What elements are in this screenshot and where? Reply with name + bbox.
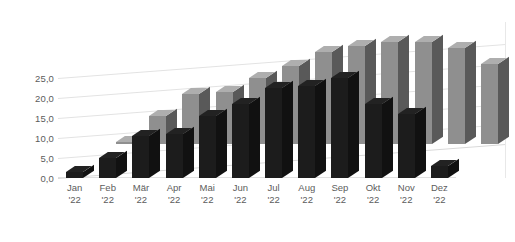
- x-axis-month: Mai: [200, 182, 215, 193]
- bar-side-face: [149, 129, 160, 178]
- bar-front-face: [166, 134, 183, 178]
- x-axis-year: '22: [190, 194, 224, 206]
- x-axis-year: '22: [257, 194, 291, 206]
- x-axis-month: Jun: [233, 182, 248, 193]
- bar-column: [398, 114, 415, 178]
- x-axis-month: Jan: [67, 182, 82, 193]
- x-axis-category-label: Dez'22: [422, 182, 456, 206]
- bar-column: [448, 48, 465, 144]
- bar-front-face: [199, 116, 216, 178]
- x-axis-category-label: Mär'22: [124, 182, 158, 206]
- bar-column: [166, 134, 183, 178]
- x-axis-month: Okt: [366, 182, 381, 193]
- x-axis-category-label: Okt'22: [356, 182, 390, 206]
- x-axis-month: Feb: [100, 182, 116, 193]
- x-axis-year: '22: [223, 194, 257, 206]
- x-axis-category-label: Jan'22: [58, 182, 92, 206]
- bar-column: [298, 86, 315, 178]
- x-axis-year: '22: [389, 194, 423, 206]
- bar-column: [265, 88, 282, 178]
- bar-column: [232, 104, 249, 178]
- bar-side-face: [282, 81, 293, 178]
- bar-column: [365, 104, 382, 178]
- bar-column: [431, 166, 448, 178]
- bar-side-face: [183, 127, 194, 178]
- x-axis-month: Nov: [398, 182, 415, 193]
- x-axis-year: '22: [356, 194, 390, 206]
- x-axis-year: '22: [157, 194, 191, 206]
- bar-side-face: [415, 107, 426, 178]
- bar-column: [99, 158, 116, 178]
- bar-front-face: [232, 104, 249, 178]
- bar-column: [199, 116, 216, 178]
- x-axis: Jan'22Feb'22Mär'22Apr'22Mai'22Jun'22Jul'…: [58, 182, 458, 218]
- bar-front-face: [481, 64, 498, 144]
- bar-column: [116, 142, 133, 144]
- x-axis-category-label: Mai'22: [190, 182, 224, 206]
- bar-front-face: [99, 158, 116, 178]
- bar-front-face: [331, 78, 348, 178]
- x-axis-year: '22: [422, 194, 456, 206]
- x-axis-category-label: Feb'22: [91, 182, 125, 206]
- bar-side-face: [249, 97, 260, 178]
- bar-front-face: [398, 114, 415, 178]
- bar-side-face: [348, 71, 359, 178]
- bar-front-face: [431, 166, 448, 178]
- bar-front-face: [298, 86, 315, 178]
- y-axis-tick-label: 0,0: [40, 173, 54, 184]
- y-axis: 0,05,010,015,020,025,0: [10, 64, 54, 184]
- x-axis-category-label: Jun'22: [223, 182, 257, 206]
- x-axis-year: '22: [124, 194, 158, 206]
- x-axis-category-label: Jul'22: [257, 182, 291, 206]
- x-axis-category-label: Nov'22: [389, 182, 423, 206]
- x-axis-category-label: Apr'22: [157, 182, 191, 206]
- bar-column: [331, 78, 348, 178]
- x-axis-month: Aug: [298, 182, 315, 193]
- floor-line: [58, 177, 456, 178]
- bar-chart: 0,05,010,015,020,025,0 Jan'22Feb'22Mär'2…: [0, 0, 515, 242]
- bar-side-face: [315, 79, 326, 178]
- y-axis-tick-label: 25,0: [35, 73, 54, 84]
- bar-side-face: [382, 97, 393, 178]
- x-axis-year: '22: [290, 194, 324, 206]
- bar-front-face: [66, 172, 83, 178]
- bar-column: [66, 172, 83, 178]
- y-axis-tick-label: 20,0: [35, 93, 54, 104]
- x-axis-month: Apr: [167, 182, 182, 193]
- bar-front-face: [132, 136, 149, 178]
- x-axis-category-label: Aug'22: [290, 182, 324, 206]
- bar-side-face: [432, 35, 443, 144]
- bar-side-face: [216, 109, 227, 178]
- plot-area: [58, 22, 506, 178]
- y-axis-tick-label: 5,0: [40, 153, 54, 164]
- y-axis-tick-label: 10,0: [35, 133, 54, 144]
- x-axis-month: Jul: [268, 182, 280, 193]
- bar-column: [132, 136, 149, 178]
- bar-side-face: [465, 41, 476, 144]
- bar-column: [481, 64, 498, 144]
- bar-front-face: [116, 142, 133, 144]
- x-axis-month: Sep: [331, 182, 348, 193]
- x-axis-year: '22: [58, 194, 92, 206]
- bar-side-face: [498, 57, 509, 144]
- y-axis-tick-label: 15,0: [35, 113, 54, 124]
- x-axis-year: '22: [323, 194, 357, 206]
- x-axis-category-label: Sep'22: [323, 182, 357, 206]
- x-axis-month: Dez: [431, 182, 448, 193]
- bar-front-face: [365, 104, 382, 178]
- x-axis-year: '22: [91, 194, 125, 206]
- bar-front-face: [448, 48, 465, 144]
- bar-front-face: [265, 88, 282, 178]
- x-axis-month: Mär: [133, 182, 149, 193]
